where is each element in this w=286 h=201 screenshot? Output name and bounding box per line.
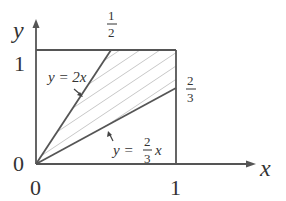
x-tick-1: 1 [170, 175, 181, 200]
y-axis-label: y [11, 17, 24, 43]
y-tick-1: 1 [14, 51, 25, 76]
svg-text:1: 1 [108, 8, 115, 23]
svg-text:2: 2 [108, 25, 115, 40]
svg-text:3: 3 [187, 90, 194, 105]
label-y-equals-2x: y = 2x [46, 69, 87, 85]
pointer-arrow-two-thirds [107, 131, 113, 141]
svg-text:2: 2 [144, 134, 151, 149]
y-tick-0: 0 [13, 151, 24, 176]
svg-text:y =: y = [111, 142, 134, 158]
svg-text:3: 3 [144, 151, 151, 166]
region-diagram: y x 1 0 0 1 1 2 2 3 y = 2x y = 2 3 x [0, 0, 286, 201]
fraction-one-half: 1 2 [107, 8, 117, 40]
y-axis-arrow-icon [33, 19, 40, 28]
x-axis-label: x [259, 155, 271, 181]
svg-text:x: x [154, 142, 162, 158]
label-y-equals-two-thirds-x: y = 2 3 x [111, 134, 162, 166]
svg-text:2: 2 [187, 73, 194, 88]
line-y-equals-2x [36, 50, 111, 164]
y-axis [33, 19, 40, 164]
x-axis-arrow-icon [246, 161, 256, 168]
fraction-two-thirds: 2 3 [186, 73, 196, 105]
x-tick-0: 0 [30, 175, 41, 200]
